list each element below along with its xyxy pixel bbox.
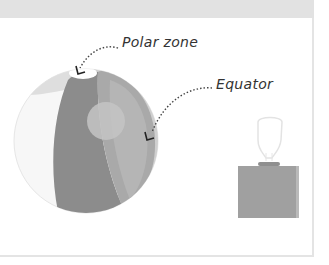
globe-highlight: [87, 102, 125, 140]
light-bulb-icon: [258, 118, 282, 159]
equator-label: Equator: [216, 76, 273, 92]
lamp: [238, 118, 299, 219]
bulb-socket: [258, 162, 280, 166]
lamp-base: [238, 166, 299, 218]
polar-zone-label: Polar zone: [122, 34, 198, 50]
globe: [14, 66, 160, 219]
